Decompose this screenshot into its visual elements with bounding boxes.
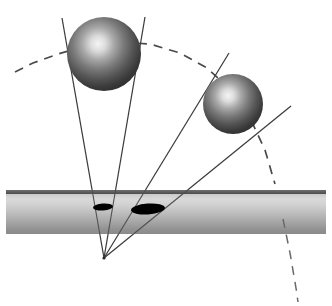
ray-convergence-point bbox=[102, 256, 105, 259]
sphere-small-right bbox=[203, 74, 263, 134]
pipe-top-edge bbox=[6, 190, 326, 194]
sphere-large-left bbox=[67, 17, 141, 91]
pipe-body bbox=[6, 194, 326, 234]
figure-canvas bbox=[0, 0, 332, 306]
horizontal-pipe bbox=[6, 190, 326, 234]
background-rect bbox=[0, 0, 332, 306]
diagram-svg bbox=[0, 0, 332, 306]
